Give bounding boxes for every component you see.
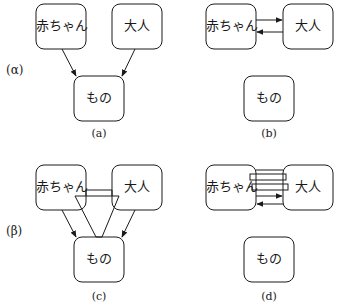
row-label-beta: (β) bbox=[6, 224, 22, 238]
object-label: もの bbox=[74, 91, 124, 105]
adult-label: 大人 bbox=[112, 180, 162, 194]
object-label: もの bbox=[244, 252, 294, 266]
panel-caption-b: (b) bbox=[244, 127, 294, 141]
row-label-alpha: (α) bbox=[6, 63, 23, 77]
panel-caption-a: (a) bbox=[74, 127, 124, 141]
adult-label: 大人 bbox=[112, 19, 162, 33]
adult-label: 大人 bbox=[283, 19, 333, 33]
baby-label: 赤ちゃん bbox=[36, 180, 86, 194]
panel-caption-d: (d) bbox=[244, 290, 294, 304]
adult-label: 大人 bbox=[283, 180, 333, 194]
object-label: もの bbox=[74, 252, 124, 266]
baby-label: 赤ちゃん bbox=[206, 180, 256, 194]
baby-label: 赤ちゃん bbox=[206, 19, 256, 33]
baby-label: 赤ちゃん bbox=[36, 19, 86, 33]
object-label: もの bbox=[244, 91, 294, 105]
panel-caption-c: (c) bbox=[74, 290, 124, 304]
